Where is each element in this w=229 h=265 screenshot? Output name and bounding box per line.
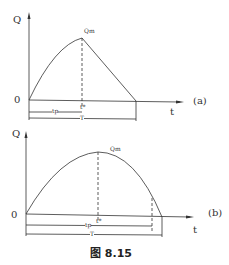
x-axis-label-b: t bbox=[193, 225, 197, 235]
rise-label-b: tp bbox=[85, 222, 91, 228]
panel-a bbox=[28, 12, 185, 121]
total-label-a: T bbox=[80, 115, 84, 121]
origin-label-b: 0 bbox=[11, 210, 17, 220]
total-label-b: T bbox=[90, 231, 94, 237]
peak-label-a: Qm bbox=[84, 28, 95, 34]
x-axis-b bbox=[26, 214, 190, 217]
peak-label-b: Qm bbox=[110, 146, 121, 152]
peak-time-label-b: t* bbox=[96, 218, 101, 224]
x-axis-label-a: t bbox=[170, 107, 174, 117]
rise-label-a: tp bbox=[52, 108, 58, 114]
y-axis-label-a: Q bbox=[13, 15, 21, 25]
y-axis-label-b: Q bbox=[12, 129, 20, 139]
origin-label-a: 0 bbox=[14, 95, 20, 105]
figure-caption: 图 8.15 bbox=[90, 244, 132, 260]
hydrograph-curve-b bbox=[26, 152, 162, 217]
panel-tag-b: (b) bbox=[208, 208, 222, 218]
x-axis-a bbox=[29, 100, 180, 102]
panel-tag-a: (a) bbox=[193, 96, 207, 106]
hydrograph-curve-a bbox=[29, 38, 136, 101]
peak-time-label-a: t* bbox=[80, 104, 85, 110]
